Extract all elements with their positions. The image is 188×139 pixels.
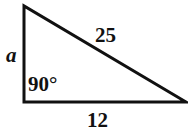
right-angle-label: 90° [28, 74, 57, 95]
right-triangle-figure: a 25 12 90° [0, 0, 188, 139]
vertical-leg-label: a [6, 45, 17, 66]
hypotenuse-label: 25 [95, 25, 116, 46]
horizontal-leg-label: 12 [87, 110, 108, 131]
